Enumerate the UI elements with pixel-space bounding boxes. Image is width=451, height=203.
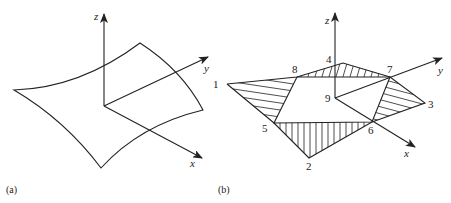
figure: z y x (a) — [0, 0, 451, 203]
node-label-1: 1 — [213, 78, 219, 90]
node-label-2: 2 — [306, 160, 312, 172]
curved-surface — [14, 43, 203, 168]
y-axis-a — [104, 57, 208, 106]
y-label-a: y — [203, 62, 209, 74]
x-label-a: x — [189, 157, 195, 169]
panel-b: z y x 1 2 3 4 5 6 7 8 9 (b) — [213, 13, 443, 196]
x-label-b: x — [403, 147, 409, 159]
figure-canvas: z y x (a) — [0, 0, 451, 203]
node-label-8: 8 — [292, 63, 298, 75]
panel-a: z y x (a) — [6, 10, 209, 196]
z-label-a: z — [93, 10, 99, 22]
z-label-b: z — [324, 14, 330, 26]
node-label-4: 4 — [326, 53, 332, 65]
node-label-5: 5 — [262, 122, 268, 134]
caption-b: (b) — [218, 184, 230, 196]
y-label-b: y — [437, 64, 443, 76]
node-label-3: 3 — [428, 98, 434, 110]
node-label-7: 7 — [387, 63, 393, 75]
node-label-9: 9 — [325, 92, 331, 104]
node-label-6: 6 — [368, 124, 374, 136]
caption-a: (a) — [6, 184, 17, 196]
